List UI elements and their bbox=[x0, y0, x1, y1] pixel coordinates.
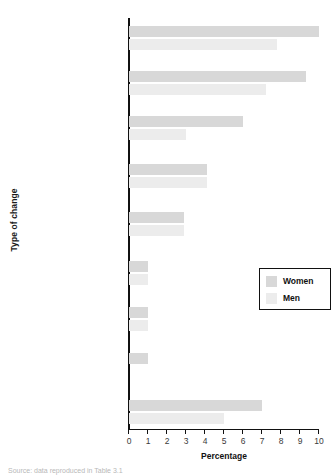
legend-swatch-women-icon bbox=[266, 276, 277, 287]
legend-label-women: Women bbox=[283, 276, 314, 286]
legend-entry-men[interactable]: Men bbox=[266, 291, 300, 305]
x-tick-7 bbox=[261, 429, 262, 434]
bar-women-0[interactable] bbox=[129, 26, 319, 37]
legend-swatch-men-icon bbox=[266, 293, 277, 304]
bar-men-0[interactable] bbox=[129, 39, 277, 50]
bar-women-3[interactable] bbox=[129, 164, 207, 175]
bar-women-4[interactable] bbox=[129, 212, 184, 223]
x-tick-0 bbox=[128, 429, 129, 434]
x-tick-2 bbox=[166, 429, 167, 434]
legend-label-men: Men bbox=[283, 293, 300, 303]
x-tick-label-0: 0 bbox=[119, 436, 139, 446]
bar-women-7[interactable] bbox=[129, 353, 148, 364]
x-axis-title: Percentage bbox=[129, 451, 319, 461]
bar-men-8[interactable] bbox=[129, 413, 224, 424]
x-tick-label-7: 7 bbox=[252, 436, 272, 446]
bar-women-5[interactable] bbox=[129, 261, 148, 272]
bar-men-2[interactable] bbox=[129, 129, 186, 140]
source-caption: Source: data reproduced in Table 3.1 bbox=[8, 467, 123, 474]
chart-legend: Women Men bbox=[259, 268, 331, 310]
y-axis-title: Type of change bbox=[9, 160, 19, 280]
legend-entry-women[interactable]: Women bbox=[266, 274, 314, 288]
plot-area: 0 1 2 3 4 5 6 7 8 9 10 Percentage bbox=[129, 18, 319, 429]
x-tick-label-9: 9 bbox=[290, 436, 310, 446]
bar-women-1[interactable] bbox=[129, 71, 306, 82]
x-tick-label-1: 1 bbox=[138, 436, 158, 446]
bar-men-1[interactable] bbox=[129, 84, 266, 95]
bar-women-8[interactable] bbox=[129, 400, 262, 411]
x-tick-8 bbox=[280, 429, 281, 434]
x-tick-6 bbox=[242, 429, 243, 434]
x-tick-label-5: 5 bbox=[214, 436, 234, 446]
bar-women-2[interactable] bbox=[129, 116, 243, 127]
bar-men-5[interactable] bbox=[129, 274, 148, 285]
x-tick-label-2: 2 bbox=[157, 436, 177, 446]
bar-men-3[interactable] bbox=[129, 177, 207, 188]
bar-men-6[interactable] bbox=[129, 320, 148, 331]
x-tick-label-8: 8 bbox=[271, 436, 291, 446]
x-tick-5 bbox=[223, 429, 224, 434]
x-tick-label-4: 4 bbox=[195, 436, 215, 446]
x-tick-label-10: 10 bbox=[309, 436, 329, 446]
x-tick-4 bbox=[204, 429, 205, 434]
x-tick-9 bbox=[299, 429, 300, 434]
x-tick-3 bbox=[185, 429, 186, 434]
x-tick-label-6: 6 bbox=[233, 436, 253, 446]
x-tick-label-3: 3 bbox=[176, 436, 196, 446]
x-tick-10 bbox=[318, 429, 319, 434]
bar-chart-figure: Type of change Eats less fatty/ fried fo… bbox=[0, 0, 336, 476]
bar-women-6[interactable] bbox=[129, 307, 148, 318]
bar-men-4[interactable] bbox=[129, 225, 184, 236]
x-tick-1 bbox=[147, 429, 148, 434]
